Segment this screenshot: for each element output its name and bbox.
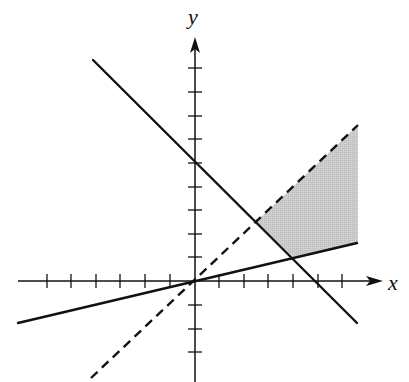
line-y-equals-x-over-4 [18, 243, 357, 323]
y-axis: y [186, 4, 202, 382]
x-axis: x [18, 270, 398, 295]
coordinate-graph: x y [0, 0, 409, 382]
x-axis-label: x [387, 270, 398, 295]
y-axis-label: y [186, 4, 198, 29]
